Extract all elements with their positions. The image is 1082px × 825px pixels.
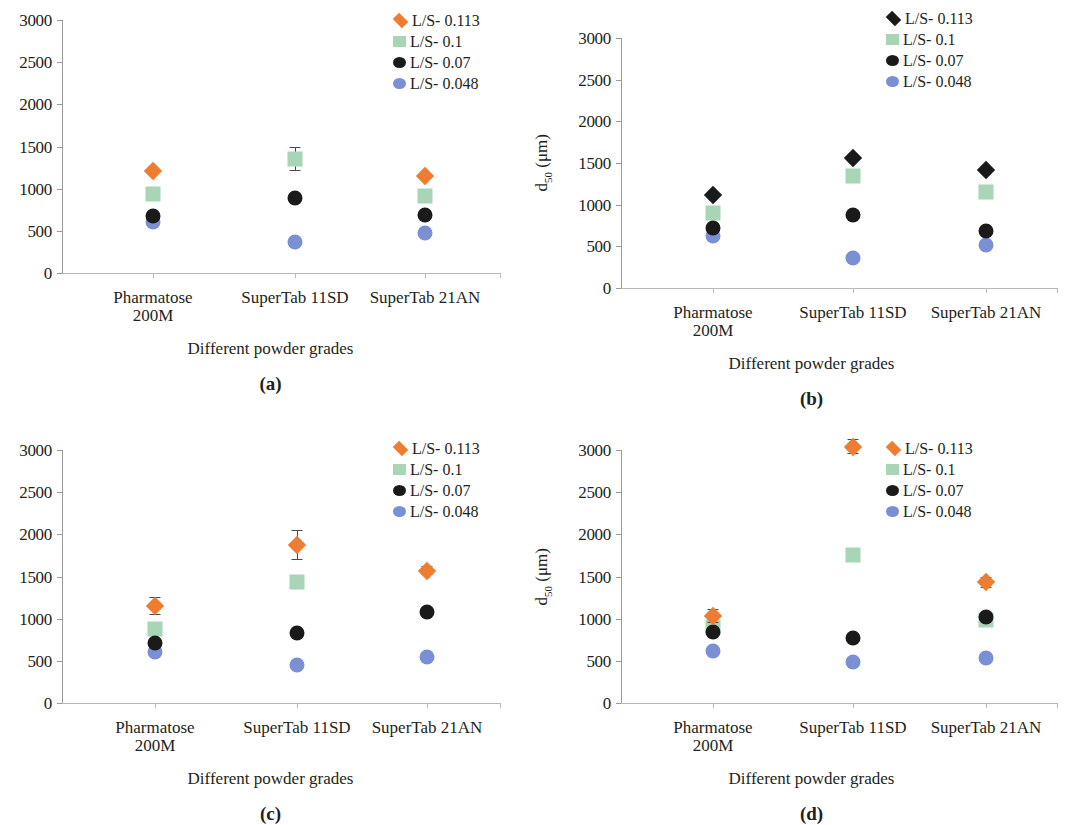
x-tick-mark: [1057, 703, 1058, 708]
x-category-label: SuperTab 11SD: [778, 304, 928, 322]
data-point: [418, 188, 433, 203]
legend-item: L/S- 0.113: [392, 10, 480, 31]
x-axis-title: Different powder grades: [541, 769, 1082, 789]
legend-item: L/S- 0.113: [392, 438, 480, 459]
legend-label: L/S- 0.113: [412, 13, 480, 29]
y-tick-label: 1000: [561, 196, 611, 213]
x-category-label: SuperTab 21AN: [911, 304, 1061, 322]
legend-marker-square-icon: [886, 464, 899, 475]
data-point: [706, 625, 721, 640]
legend-item: L/S- 0.07: [392, 52, 480, 73]
legend-item: L/S- 0.07: [885, 50, 973, 71]
data-point: [846, 655, 861, 670]
legend-item: L/S- 0.113: [885, 438, 973, 459]
x-category-label: Pharmatose 200M: [638, 304, 788, 340]
y-tick-mark: [57, 661, 62, 662]
panel-letter: (d): [541, 803, 1082, 825]
legend-marker-circle-icon: [886, 55, 899, 66]
x-category-label: SuperTab 21AN: [911, 719, 1061, 737]
y-tick-label: 1500: [2, 138, 52, 155]
x-axis-line: [62, 273, 500, 274]
data-point: [706, 206, 721, 221]
x-axis-line: [621, 703, 1057, 704]
data-point: [846, 631, 861, 646]
y-tick-mark: [616, 492, 621, 493]
legend-label: L/S- 0.113: [412, 441, 480, 457]
y-tick-mark: [57, 147, 62, 148]
x-category-label: SuperTab 11SD: [220, 289, 370, 307]
legend-marker-diamond-icon: [393, 13, 409, 29]
x-category-label: SuperTab 11SD: [222, 719, 372, 737]
chart-legend: L/S- 0.113L/S- 0.1L/S- 0.07L/S- 0.048: [392, 438, 480, 522]
x-axis-title: Different powder grades: [0, 339, 541, 359]
data-point: [844, 149, 862, 167]
x-category-label: Pharmatose 200M: [78, 289, 228, 325]
x-category-label: SuperTab 21AN: [350, 289, 500, 307]
y-tick-label: 1000: [561, 610, 611, 627]
y-tick-label: 3000: [2, 12, 52, 29]
panel-letter: (a): [0, 373, 541, 395]
legend-marker-square-icon: [393, 464, 406, 475]
data-point: [979, 224, 994, 239]
y-tick-mark: [616, 450, 621, 451]
legend-marker-diamond-icon: [886, 11, 902, 27]
legend-item: L/S- 0.048: [885, 501, 973, 522]
legend-marker-diamond-icon: [886, 441, 902, 457]
y-tick-label: 1000: [2, 610, 52, 627]
y-tick-mark: [616, 703, 621, 704]
x-tick-mark: [500, 703, 501, 708]
legend-item: L/S- 0.048: [392, 501, 480, 522]
x-axis-line: [62, 703, 500, 704]
y-tick-label: 1500: [561, 568, 611, 585]
data-point: [420, 605, 435, 620]
legend-item: L/S- 0.048: [392, 73, 480, 94]
y-axis-line: [621, 450, 622, 703]
legend-item: L/S- 0.07: [885, 480, 973, 501]
y-tick-mark: [616, 205, 621, 206]
x-tick-mark: [500, 273, 501, 278]
y-tick-label: 0: [2, 265, 52, 282]
y-tick-mark: [57, 619, 62, 620]
data-point: [706, 644, 721, 659]
legend-marker-circle-icon: [393, 506, 406, 517]
x-tick-mark: [1057, 288, 1058, 293]
legend-marker-circle-icon: [886, 485, 899, 496]
data-point: [148, 621, 163, 636]
data-point: [146, 187, 161, 202]
y-tick-mark: [57, 534, 62, 535]
y-tick-mark: [57, 577, 62, 578]
x-category-label: SuperTab 11SD: [778, 719, 928, 737]
data-point: [977, 160, 995, 178]
y-tick-label: 2500: [561, 484, 611, 501]
x-tick-mark: [155, 703, 156, 708]
y-axis-line: [62, 20, 63, 273]
data-point: [704, 185, 722, 203]
legend-label: L/S- 0.048: [410, 76, 478, 92]
y-tick-mark: [57, 20, 62, 21]
legend-marker-circle-icon: [393, 485, 406, 496]
y-tick-label: 2000: [2, 96, 52, 113]
chart-legend: L/S- 0.113L/S- 0.1L/S- 0.07L/S- 0.048: [885, 8, 973, 92]
legend-marker-square-icon: [393, 36, 406, 47]
legend-item: L/S- 0.1: [392, 31, 480, 52]
legend-item: L/S- 0.1: [885, 459, 973, 480]
data-point: [979, 237, 994, 252]
y-tick-label: 2000: [561, 113, 611, 130]
y-tick-label: 1500: [561, 155, 611, 172]
y-tick-mark: [616, 38, 621, 39]
data-point: [846, 207, 861, 222]
y-tick-label: 2000: [2, 526, 52, 543]
legend-item: L/S- 0.1: [392, 459, 480, 480]
data-point: [290, 575, 305, 590]
legend-marker-circle-icon: [886, 76, 899, 87]
data-point: [288, 235, 303, 250]
chart-legend: L/S- 0.113L/S- 0.1L/S- 0.07L/S- 0.048: [392, 10, 480, 94]
x-tick-mark: [153, 273, 154, 278]
y-tick-mark: [57, 104, 62, 105]
y-tick-label: 1000: [2, 180, 52, 197]
legend-label: L/S- 0.1: [410, 34, 462, 50]
data-point: [979, 609, 994, 624]
data-point: [979, 651, 994, 666]
y-tick-mark: [57, 450, 62, 451]
data-point: [416, 167, 434, 185]
